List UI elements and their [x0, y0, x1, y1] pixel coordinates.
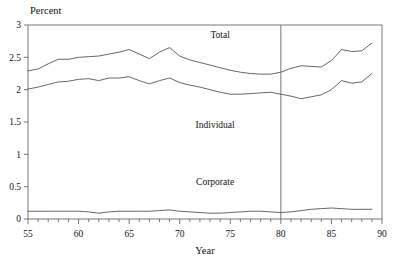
chart-container: 00.511.522.535560657075808590TotalIndivi…	[0, 0, 407, 262]
y-tick-label: 1.5	[9, 117, 21, 127]
x-axis-title: Year	[195, 245, 215, 256]
x-tick-label: 60	[74, 229, 84, 239]
line-chart: 00.511.522.535560657075808590TotalIndivi…	[0, 0, 407, 262]
x-tick-label: 90	[377, 229, 387, 239]
series-line-corporate	[28, 208, 372, 213]
y-tick-label: 2.5	[9, 53, 21, 63]
series-label-individual: Individual	[196, 120, 235, 130]
y-tick-label: 2	[16, 85, 21, 95]
x-tick-label: 55	[23, 229, 33, 239]
y-tick-label: 1	[16, 150, 21, 160]
x-tick-label: 80	[276, 229, 286, 239]
y-tick-label: 0.5	[9, 182, 21, 192]
y-tick-label: 0	[16, 214, 21, 224]
series-line-individual	[28, 74, 372, 99]
x-tick-label: 65	[124, 229, 134, 239]
y-axis-title: Percent	[30, 5, 62, 16]
y-tick-label: 3	[16, 20, 21, 30]
x-tick-label: 70	[175, 229, 185, 239]
series-label-corporate: Corporate	[196, 177, 234, 187]
x-tick-label: 75	[226, 229, 236, 239]
series-line-total	[28, 43, 372, 74]
x-tick-label: 85	[327, 229, 337, 239]
series-label-total: Total	[210, 30, 230, 40]
